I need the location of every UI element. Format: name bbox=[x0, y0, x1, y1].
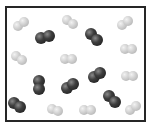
light-atom bbox=[127, 44, 137, 54]
light-atom bbox=[86, 105, 96, 115]
light-atom bbox=[123, 16, 133, 26]
dark-atom bbox=[91, 34, 103, 46]
light-atom bbox=[17, 55, 27, 65]
dark-atom bbox=[43, 30, 55, 42]
light-atom bbox=[68, 19, 78, 29]
dark-atom bbox=[33, 83, 45, 95]
light-atom bbox=[67, 54, 77, 64]
dark-atom bbox=[67, 78, 79, 90]
dark-atom bbox=[94, 67, 106, 79]
light-atom bbox=[131, 101, 141, 111]
light-atom bbox=[128, 71, 138, 81]
light-atom bbox=[19, 17, 29, 27]
dark-atom bbox=[109, 96, 121, 108]
